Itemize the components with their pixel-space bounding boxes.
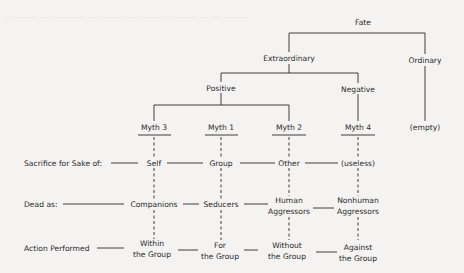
dead-human-line1: Human [274, 196, 303, 205]
dead-nonhuman-line1: Nonhuman [336, 196, 380, 205]
node-ordinary: Ordinary [408, 56, 443, 65]
action-for-line2: the Group [200, 252, 240, 261]
node-myth-3: Myth 3 [140, 123, 168, 132]
node-myth-2: Myth 2 [275, 123, 303, 132]
node-positive: Positive [205, 84, 236, 93]
action-against-line1: Against [343, 243, 374, 252]
node-extraordinary: Extraordinary [262, 54, 316, 63]
sacrifice-self: Self [146, 159, 162, 168]
node-myth-1: Myth 1 [207, 123, 235, 132]
sacrifice-group: Group [208, 159, 233, 168]
row-label-sacrifice: Sacrifice for Sake of: [23, 159, 103, 168]
sacrifice-other: Other [277, 159, 301, 168]
dead-human-line2: Aggressors [267, 207, 311, 216]
action-for-line1: For [213, 241, 227, 250]
action-within-line2: the Group [132, 250, 172, 259]
dead-companions: Companions [129, 200, 178, 209]
action-without-line1: Without [271, 241, 303, 250]
node-negative: Negative [340, 85, 376, 94]
dead-seducers: Seducers [202, 200, 239, 209]
node-fate: Fate [354, 18, 372, 27]
node-myth-4: Myth 4 [344, 123, 372, 132]
action-against-line2: the Group [338, 254, 378, 263]
row-label-action: Action Performed [23, 244, 91, 253]
action-without-line2: the Group [267, 252, 307, 261]
node-empty: (empty) [409, 123, 441, 132]
action-within-line1: Within [139, 239, 165, 248]
sacrifice-useless: (useless) [340, 159, 376, 168]
dead-nonhuman-line2: Aggressors [336, 207, 380, 216]
row-label-dead-as: Dead as: [23, 200, 59, 209]
tree-connectors [0, 0, 464, 273]
